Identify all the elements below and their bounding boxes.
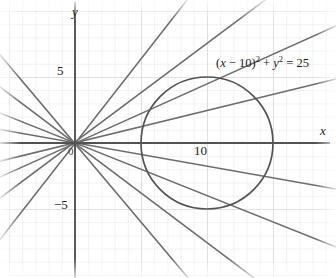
graph-figure: y x 5 −5 0 10 (x − 10)2 + y2 = 25 <box>0 0 336 278</box>
y-axis-label: y <box>72 5 78 18</box>
y-tick-label-minus5: −5 <box>54 198 68 211</box>
graph-canvas <box>0 0 336 278</box>
circle-equation-label: (x − 10)2 + y2 = 25 <box>216 55 309 70</box>
y-tick-label-5: 5 <box>57 64 64 77</box>
edge-fade-vertical <box>0 0 336 278</box>
origin-label: 0 <box>68 146 74 157</box>
equation-tail: = 25 <box>283 56 309 70</box>
equation-plus: + <box>260 56 273 70</box>
x-tick-label-10: 10 <box>194 144 207 157</box>
x-axis-label: x <box>320 124 326 137</box>
equation-minus-ten: − 10) <box>226 56 256 70</box>
